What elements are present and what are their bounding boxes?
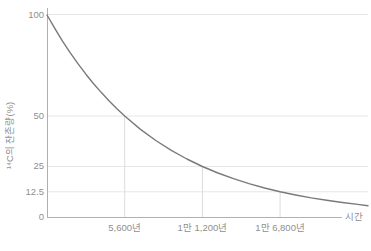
y-tick-label-100: 100	[12, 9, 44, 21]
y-tick-label-0: 0	[12, 211, 44, 223]
decay-curve	[47, 15, 368, 206]
plot-area	[0, 0, 371, 251]
y-tick-label-12-5: 12.5	[12, 186, 44, 198]
x-axis-label: 시간	[345, 211, 363, 223]
y-tick-label-50: 50	[12, 110, 44, 122]
y-tick-label-25: 25	[12, 160, 44, 172]
c14-decay-chart: ¹⁴C의 잔존량(%) 100 50 25 12.5 0 5,600년 1만 1…	[0, 0, 371, 251]
x-tick-label-16800: 1만 6,800년	[230, 222, 330, 234]
